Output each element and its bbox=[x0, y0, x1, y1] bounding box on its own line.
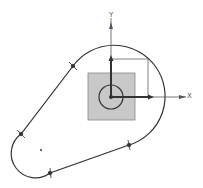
y-axis-label: Y bbox=[109, 12, 113, 19]
x-axis-label: X bbox=[187, 93, 192, 100]
x-arrow-icon bbox=[148, 95, 154, 100]
x-axis-arrow-icon bbox=[179, 95, 186, 99]
sketch-canvas bbox=[0, 0, 203, 188]
y-axis-arrow-icon bbox=[109, 22, 113, 29]
y-arrow-icon bbox=[109, 55, 114, 61]
small-arc-center bbox=[40, 149, 42, 151]
